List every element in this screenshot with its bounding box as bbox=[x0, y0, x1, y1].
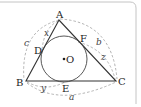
label-F: F bbox=[80, 33, 87, 44]
segment-label-x: x bbox=[44, 28, 49, 38]
label-B: B bbox=[16, 77, 23, 88]
label-C: C bbox=[118, 76, 126, 87]
segment-label-b: b bbox=[96, 37, 102, 47]
segment-label-z: z bbox=[100, 52, 106, 62]
label-D: D bbox=[34, 45, 42, 56]
center-dot bbox=[63, 58, 66, 61]
arc-b bbox=[60, 19, 117, 79]
label-O: O bbox=[66, 54, 74, 65]
incircle-triangle-diagram: A B C D E F O x c b z y a bbox=[0, 0, 141, 107]
label-A: A bbox=[55, 9, 64, 20]
segment-label-c: c bbox=[24, 38, 29, 48]
segment-label-y: y bbox=[40, 83, 47, 93]
segment-label-a: a bbox=[69, 92, 74, 102]
